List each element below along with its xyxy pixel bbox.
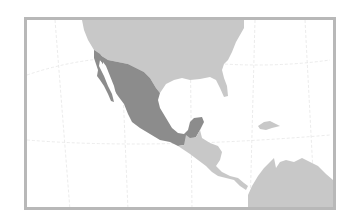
map-canvas: [27, 20, 333, 207]
map-frame: Mexico locator map: [24, 17, 336, 210]
land-hispaniola: [258, 121, 280, 130]
land-south-america: [248, 158, 333, 207]
land-central-america: [178, 130, 248, 190]
